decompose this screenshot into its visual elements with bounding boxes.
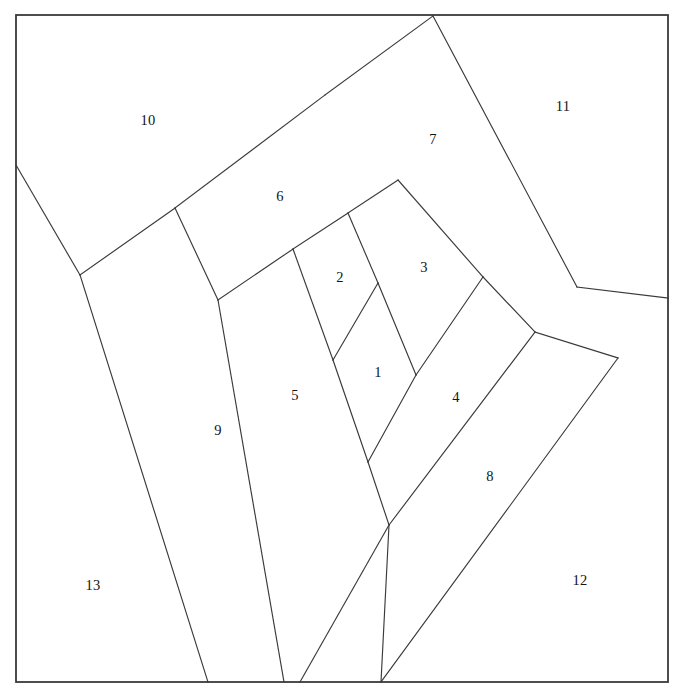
region-8-label: 8 (486, 468, 494, 484)
region-faces-group (16, 15, 668, 682)
region-7-label: 7 (429, 131, 437, 147)
region-11-label: 11 (556, 98, 571, 114)
region-4-label: 4 (452, 389, 460, 405)
region-6-label: 6 (276, 188, 284, 204)
region-5-label: 5 (291, 387, 299, 403)
region-3-label: 3 (420, 259, 428, 275)
region-1-label: 1 (374, 364, 382, 380)
tiling-canvas: 12345678910111213 (0, 0, 674, 691)
region-10-label: 10 (140, 112, 155, 128)
region-9-label: 9 (214, 422, 222, 438)
region-12-label: 12 (572, 572, 587, 588)
region-13-label: 13 (85, 577, 100, 593)
tiling-figure: 12345678910111213 (0, 0, 674, 691)
region-2-label: 2 (336, 269, 344, 285)
